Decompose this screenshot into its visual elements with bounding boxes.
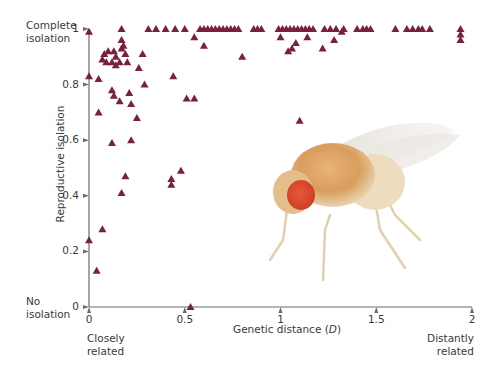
y-tick-mark	[83, 194, 89, 198]
y-tick-label: 0.4	[51, 189, 79, 201]
triangle-marker	[238, 53, 246, 60]
y-tick-label: 0	[51, 300, 79, 312]
triangle-marker	[118, 36, 126, 43]
annotation-line: Closely	[87, 332, 125, 345]
eye	[287, 180, 315, 210]
x-tick-label: 0	[74, 313, 104, 325]
triangle-marker	[183, 95, 191, 102]
triangle-marker	[98, 225, 106, 232]
y-tick-label: 0.6	[51, 133, 79, 145]
triangle-marker	[118, 25, 126, 32]
x-tick-label: 1.5	[361, 313, 391, 325]
triangle-marker	[391, 25, 399, 32]
triangle-marker	[190, 33, 198, 40]
y-tick-mark	[83, 83, 89, 87]
triangle-marker	[127, 136, 135, 143]
triangle-marker	[330, 36, 338, 43]
annotation-line: related	[87, 345, 125, 358]
triangle-marker	[108, 86, 116, 93]
y-tick-label: 0.2	[51, 244, 79, 256]
triangle-marker	[118, 189, 126, 196]
triangle-marker	[141, 81, 149, 88]
triangle-marker	[319, 44, 327, 51]
triangle-marker	[127, 100, 135, 107]
triangle-marker	[292, 39, 300, 46]
y-tick-mark	[83, 138, 89, 142]
triangle-marker	[303, 33, 311, 40]
annotation-line: related	[418, 345, 474, 358]
triangle-marker	[152, 25, 160, 32]
triangle-marker	[426, 25, 434, 32]
triangle-marker	[177, 167, 185, 174]
y-tick-mark	[83, 249, 89, 253]
triangle-marker	[135, 64, 143, 71]
x-right-annotation: Distantly related	[418, 332, 474, 358]
y-tick-mark	[83, 305, 89, 309]
x-left-annotation: Closely related	[87, 332, 125, 358]
triangle-marker	[340, 25, 348, 32]
triangle-marker	[123, 58, 131, 65]
fruit-fly-image	[255, 100, 465, 290]
annotation-line: Distantly	[418, 332, 474, 345]
triangle-marker	[162, 25, 170, 32]
y-tick-label: 1	[51, 22, 79, 34]
triangle-marker	[95, 75, 103, 82]
triangle-marker	[169, 72, 177, 79]
triangle-marker	[200, 42, 208, 49]
y-ticks	[83, 27, 89, 309]
triangle-marker	[95, 108, 103, 115]
triangle-marker	[121, 172, 129, 179]
x-tick-label: 1	[266, 313, 296, 325]
triangle-marker	[93, 267, 101, 274]
triangle-marker	[144, 25, 152, 32]
triangle-marker	[85, 236, 93, 243]
x-tick-label: 0.5	[170, 313, 200, 325]
triangle-marker	[332, 25, 340, 32]
triangle-marker	[139, 50, 147, 57]
y-tick-label: 0.8	[51, 78, 79, 90]
triangle-marker	[125, 89, 133, 96]
triangle-marker	[190, 95, 198, 102]
triangle-marker	[171, 25, 179, 32]
triangle-marker	[277, 33, 285, 40]
y-axis-label: Reproductive isolation	[54, 94, 66, 234]
triangle-marker	[85, 72, 93, 79]
triangle-marker	[108, 139, 116, 146]
x-tick-label: 2	[457, 313, 487, 325]
triangle-marker	[181, 25, 189, 32]
triangle-marker	[133, 114, 141, 121]
triangle-marker	[110, 47, 118, 54]
